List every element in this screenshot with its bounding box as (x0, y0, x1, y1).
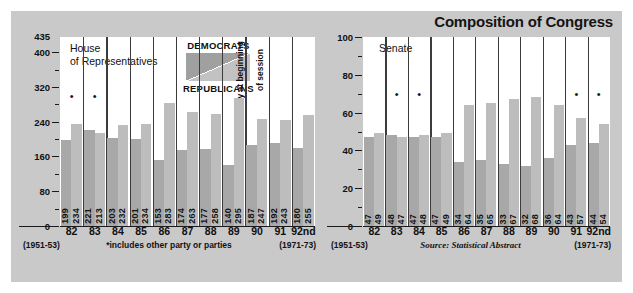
y-tick-label-100: 100 (337, 32, 353, 43)
bar-value-republicans-83: 47 (397, 214, 406, 224)
y-tick-label-80: 80 (342, 69, 353, 80)
bar-value-republicans-92nd: 54 (599, 214, 608, 224)
y-tick-major-400 (52, 52, 59, 53)
asterisk-marker-83: • (93, 90, 97, 101)
bar-value-republicans-88: 258 (211, 208, 220, 224)
bar-value-democrats-88: 177 (200, 208, 209, 224)
bar-value-republicans-91: 243 (280, 208, 289, 224)
x-axis-line-plot (60, 226, 315, 227)
bar-value-democrats-87: 174 (177, 208, 186, 224)
y-tick-label-400: 400 (34, 47, 50, 58)
y-tick-label-80: 80 (39, 186, 50, 197)
bar-value-democrats-87: 35 (476, 214, 485, 224)
chart-title: Composition of Congress (434, 13, 613, 30)
asterisk-marker-84: • (417, 88, 421, 99)
bar-value-democrats-89: 32 (521, 214, 530, 224)
y-tick-label-40: 40 (342, 145, 353, 156)
bar-value-democrats-82: 199 (61, 208, 70, 224)
bar-democrats-85 (431, 137, 441, 226)
bar-value-democrats-88: 33 (499, 214, 508, 224)
senate-y-axis: 020406080100 (327, 37, 362, 226)
bar-republicans-89 (531, 97, 541, 226)
y-tick-major-60 (355, 113, 362, 114)
y-tick-major-160 (52, 156, 59, 157)
y-tick-label-160: 160 (34, 151, 50, 162)
bar-value-republicans-89: 295 (234, 208, 243, 224)
bar-value-republicans-88: 67 (509, 214, 518, 224)
y-tick-minor-360 (55, 70, 59, 71)
bar-republicans-85 (441, 133, 451, 226)
bar-value-democrats-91: 192 (270, 208, 279, 224)
bar-value-democrats-84: 47 (409, 214, 418, 224)
bar-value-republicans-89: 68 (531, 214, 540, 224)
asterisk-marker-82: • (70, 90, 74, 101)
y-tick-minor-280 (55, 104, 59, 105)
house-x-axis-labels: 8283848586878889909192nd (19, 225, 319, 239)
bar-value-republicans-82: 234 (72, 208, 81, 224)
y-tick-label-top: 435 (34, 31, 50, 42)
bar-value-democrats-82: 47 (364, 214, 373, 224)
bar-republicans-92nd (599, 124, 609, 226)
vacancy-note-line2: of session (256, 49, 265, 91)
y-tick-major-80 (355, 75, 362, 76)
bar-value-republicans-92nd: 255 (304, 208, 313, 224)
bar-value-democrats-90: 187 (247, 208, 256, 224)
source-note: Source: Statistical Abstract (420, 240, 521, 250)
asterisk-note: *includes other party or parties (106, 240, 232, 250)
bar-value-democrats-90: 36 (544, 214, 553, 224)
bar-value-democrats-91: 43 (566, 214, 575, 224)
y-tick-major-240 (52, 122, 59, 123)
bar-value-democrats-84: 203 (108, 208, 117, 224)
y-tick-label-320: 320 (34, 81, 50, 92)
bar-value-democrats-86: 34 (454, 214, 463, 224)
house-range-start: (1951-53) (23, 240, 60, 250)
bar-value-democrats-89: 140 (224, 208, 233, 224)
bar-value-democrats-83: 221 (84, 208, 93, 224)
bar-value-republicans-85: 234 (141, 208, 150, 224)
house-footnotes: (1951-53) *includes other party or parti… (19, 240, 319, 252)
bar-republicans-87 (486, 103, 496, 226)
senate-range-start: (1951-53) (331, 240, 368, 250)
bar-value-republicans-87: 263 (188, 208, 197, 224)
bar-value-democrats-85: 201 (131, 208, 140, 224)
y-tick-major-100 (355, 37, 362, 38)
bar-value-democrats-83: 48 (387, 214, 396, 224)
bar-value-republicans-82: 49 (374, 214, 383, 224)
bar-republicans-84 (419, 135, 429, 226)
bar-republicans-91 (576, 118, 586, 226)
senate-range-end: (1971-73) (574, 240, 611, 250)
y-tick-minor-70 (358, 94, 362, 95)
bar-value-republicans-87: 65 (486, 214, 495, 224)
senate-x-axis-labels: 8283848586878889909192nd (327, 225, 614, 239)
senate-footnotes: (1951-53) Source: Statistical Abstract (… (327, 240, 614, 252)
bar-value-democrats-92nd: 180 (293, 208, 302, 224)
bar-value-republicans-86: 283 (164, 208, 173, 224)
senate-plot-area: Senate 47494847•4748•4749346435653367326… (363, 37, 610, 226)
house-plot-area: House of Representatives DEMOCRATS REPUB… (60, 37, 315, 226)
bar-democrats-83 (386, 135, 396, 226)
y-tick-minor-200 (55, 139, 59, 140)
y-tick-label-20: 20 (342, 183, 353, 194)
bar-republicans-90 (554, 105, 564, 226)
bar-republicans-83 (397, 137, 407, 226)
house-y-axis: 080160240320400435 (19, 37, 59, 226)
bar-republicans-89 (234, 98, 244, 226)
house-range-end: (1971-73) (279, 240, 316, 250)
y-tick-minor-30 (358, 169, 362, 170)
asterisk-marker-92nd: • (597, 88, 601, 99)
bar-republicans-88 (509, 99, 519, 226)
bar-value-republicans-83: 213 (95, 208, 104, 224)
y-tick-minor-10 (358, 207, 362, 208)
house-chart: 080160240320400435 House of Representati… (19, 37, 319, 252)
bar-value-republicans-90: 64 (554, 214, 563, 224)
bar-republicans-86 (464, 105, 474, 226)
y-tick-minor-50 (358, 132, 362, 133)
y-tick-minor-90 (358, 56, 362, 57)
bar-value-republicans-84: 232 (118, 208, 127, 224)
y-tick-minor-40 (55, 209, 59, 210)
bar-value-republicans-90: 247 (257, 208, 266, 224)
bar-value-democrats-92nd: 44 (589, 214, 598, 224)
y-tick-major-20 (355, 188, 362, 189)
bar-value-democrats-85: 47 (431, 214, 440, 224)
bar-republicans-82 (374, 133, 384, 226)
